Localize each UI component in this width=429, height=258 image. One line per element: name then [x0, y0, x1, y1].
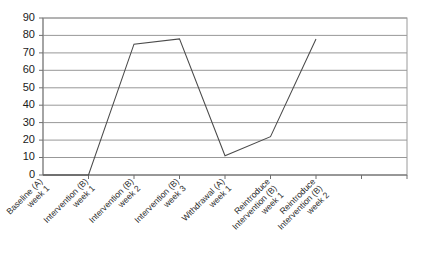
- y-tick-label: 80: [23, 28, 35, 40]
- y-tick-label: 0: [29, 168, 35, 180]
- y-tick-marks: [39, 18, 43, 175]
- x-tick-marks: [89, 175, 408, 179]
- y-tick-label: 90: [23, 11, 35, 23]
- x-tick-label: Withdrawal (A)week 1: [179, 176, 233, 230]
- line-chart: 90 80 70 60 50 40 30 20 10 0 Baseline (A…: [0, 0, 429, 258]
- x-tick-label: ReintroduceIntervention (B)week 2: [269, 176, 331, 238]
- x-tick-label: Intervention (B)week 1: [41, 176, 97, 232]
- y-tick-label: 60: [23, 63, 35, 75]
- y-tick-label: 30: [23, 116, 35, 128]
- y-tick-label: 40: [23, 98, 35, 110]
- x-tick-label: Intervention (B)week 2: [87, 176, 143, 232]
- y-tick-label: 70: [23, 46, 35, 58]
- y-tick-label: 10: [23, 150, 35, 162]
- x-tick-label: ReintroduceIntervention (B)week 1: [223, 176, 285, 238]
- plot-background: [43, 18, 407, 175]
- y-tick-label: 20: [23, 133, 35, 145]
- y-axis-tick-labels: 90 80 70 60 50 40 30 20 10 0: [23, 11, 35, 180]
- y-tick-label: 50: [23, 81, 35, 93]
- x-tick-label: Intervention (B)week 3: [132, 176, 188, 232]
- chart-container: 90 80 70 60 50 40 30 20 10 0 Baseline (A…: [0, 0, 429, 258]
- x-axis-tick-labels: Baseline (A)week 1Intervention (B)week 1…: [4, 176, 331, 238]
